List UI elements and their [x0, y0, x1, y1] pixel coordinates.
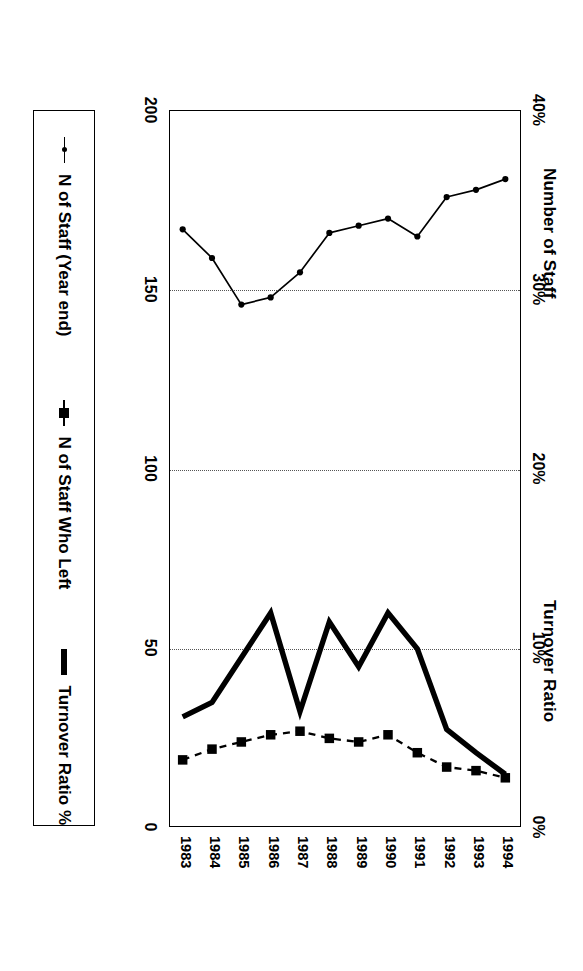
y2-tick-label-percent-10: 10% [529, 622, 547, 674]
x-tick-label-1985: 1985 [236, 836, 252, 884]
x-tick-label-1984: 1984 [207, 836, 223, 884]
chart-legend: N of Staff (Year end) N of Staff Who Lef… [33, 110, 95, 826]
x-tick-label-1990: 1990 [383, 836, 399, 884]
legend-item-staff-who-left: N of Staff Who Left [54, 400, 74, 590]
legend-label-turnover-ratio: Turnover Ratio % [54, 686, 74, 825]
legend-label-staff-year-end: N of Staff (Year end) [54, 174, 74, 336]
y-tick-label-staff-150: 150 [141, 266, 159, 312]
data-series-layer [168, 111, 520, 828]
x-tick-label-1986: 1986 [266, 836, 282, 884]
bold-line-marker-icon [57, 649, 71, 675]
x-tick-label-1991: 1991 [412, 836, 428, 884]
x-tick-label-1983: 1983 [178, 836, 194, 884]
y-tick-label-staff-200: 200 [141, 87, 159, 133]
x-tick-label-1987: 1987 [295, 836, 311, 884]
plot-area [169, 110, 521, 827]
legend-label-staff-who-left: N of Staff Who Left [54, 437, 74, 590]
legend-item-staff-year-end: N of Staff (Year end) [54, 137, 74, 336]
dashed-square-marker-icon [57, 400, 71, 426]
x-tick-label-1993: 1993 [471, 836, 487, 884]
y-tick-label-staff-50: 50 [141, 625, 159, 671]
legend-item-turnover-ratio: Turnover Ratio % [54, 649, 74, 825]
x-tick-label-1994: 1994 [500, 836, 516, 884]
y-tick-label-staff-100: 100 [141, 446, 159, 492]
x-tick-label-1988: 1988 [324, 836, 340, 884]
y-tick-label-staff-0: 0 [141, 804, 159, 850]
y2-tick-label-percent-0: 0% [529, 801, 547, 853]
y2-tick-label-percent-20: 20% [529, 443, 547, 495]
x-tick-label-1989: 1989 [354, 836, 370, 884]
y2-tick-label-percent-30: 30% [529, 263, 547, 315]
line-dot-marker-icon [57, 137, 71, 163]
chart-stage: Number of Staff Turnover Ratio 198319841… [0, 0, 583, 971]
y2-tick-label-percent-40: 40% [529, 84, 547, 136]
x-tick-label-1992: 1992 [442, 836, 458, 884]
